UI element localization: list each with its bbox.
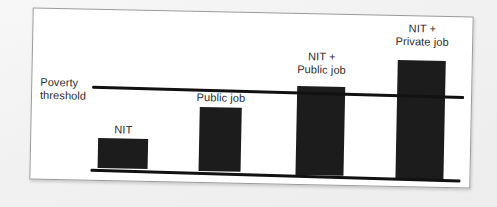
bar-label-nit: NIT: [90, 123, 156, 137]
poverty-threshold-label: Poverty threshold: [40, 76, 98, 102]
bar-label-nit-private-job: NIT + Private job: [374, 21, 470, 48]
plot-area: NIT Public job NIT + Public job NIT + Pr…: [30, 9, 472, 188]
bar-public-job: [199, 107, 242, 172]
figure-frame: NIT Public job NIT + Public job NIT + Pr…: [29, 8, 473, 189]
bar-label-nit-public-job-line2: Public job: [275, 62, 367, 76]
bar-label-nit-private-job-line2: Private job: [374, 34, 470, 48]
bar-nit-public-job: [295, 86, 345, 176]
bar-nit: [98, 138, 149, 169]
poverty-threshold-label-line2: threshold: [40, 88, 98, 102]
bar-label-nit-line1: NIT: [90, 123, 156, 137]
bar-label-nit-public-job: NIT + Public job: [275, 49, 367, 76]
figure-screenshot: NIT Public job NIT + Public job NIT + Pr…: [0, 0, 497, 207]
poverty-threshold-label-line1: Poverty: [40, 76, 98, 90]
bar-nit-private-job: [395, 60, 445, 180]
